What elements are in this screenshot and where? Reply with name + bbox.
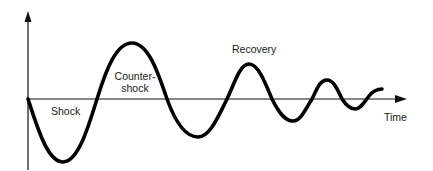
y-axis-arrow-icon [25,11,32,22]
x-axis-arrow-icon [395,95,407,103]
recovery-label: Recovery [232,43,276,55]
shock-label: Shock [51,105,80,117]
counter-shock-label-line1: Counter- [112,70,158,82]
response-curve [28,43,382,162]
counter-shock-label: Counter- shock [112,70,158,94]
shock-recovery-diagram [0,0,433,171]
counter-shock-label-line2: shock [112,82,158,94]
x-axis-label: Time [384,111,407,123]
